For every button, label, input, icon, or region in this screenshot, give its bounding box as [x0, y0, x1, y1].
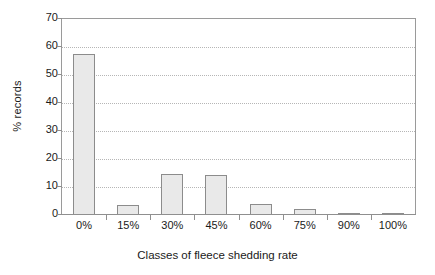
plot-area [62, 18, 416, 215]
gridline [62, 187, 415, 188]
bar [161, 174, 183, 215]
x-axis-title: Classes of fleece shedding rate [0, 249, 435, 261]
gridline [62, 131, 415, 132]
y-tick-label: 50 [32, 68, 58, 79]
y-tick-mark [57, 18, 62, 19]
x-tick-mark [106, 215, 107, 220]
y-tick-label: 20 [32, 152, 58, 163]
gridline [62, 75, 415, 76]
y-axis-ticks: 010203040506070 [30, 0, 58, 275]
x-tick-mark [327, 215, 328, 220]
y-tick-label: 0 [32, 208, 58, 219]
x-tick-mark [150, 215, 151, 220]
x-tick-mark [239, 215, 240, 220]
y-tick-mark [57, 46, 62, 47]
y-tick-label: 60 [32, 40, 58, 51]
y-tick-mark [57, 102, 62, 103]
bar [205, 175, 227, 215]
x-tick-label: 90% [324, 219, 374, 231]
x-tick-label: 100% [368, 219, 418, 231]
x-tick-mark [371, 215, 372, 220]
x-tick-label: 45% [191, 219, 241, 231]
y-tick-mark [57, 74, 62, 75]
y-tick-label: 40 [32, 96, 58, 107]
y-tick-mark [57, 214, 62, 215]
x-tick-label: 30% [147, 219, 197, 231]
gridline [62, 159, 415, 160]
gridline [62, 47, 415, 48]
x-tick-mark [194, 215, 195, 220]
y-tick-label: 30 [32, 124, 58, 135]
x-tick-label: 60% [236, 219, 286, 231]
bar-chart: % records 010203040506070 0%15%30%45%60%… [0, 0, 435, 275]
y-tick-label: 10 [32, 180, 58, 191]
gridline [62, 103, 415, 104]
y-tick-mark [57, 130, 62, 131]
y-tick-mark [57, 186, 62, 187]
bar [73, 54, 95, 215]
x-tick-label: 0% [59, 219, 109, 231]
x-tick-mark [283, 215, 284, 220]
y-axis-title: % records [11, 61, 23, 151]
x-tick-label: 15% [103, 219, 153, 231]
y-tick-label: 70 [32, 12, 58, 23]
x-tick-label: 75% [280, 219, 330, 231]
y-tick-mark [57, 158, 62, 159]
